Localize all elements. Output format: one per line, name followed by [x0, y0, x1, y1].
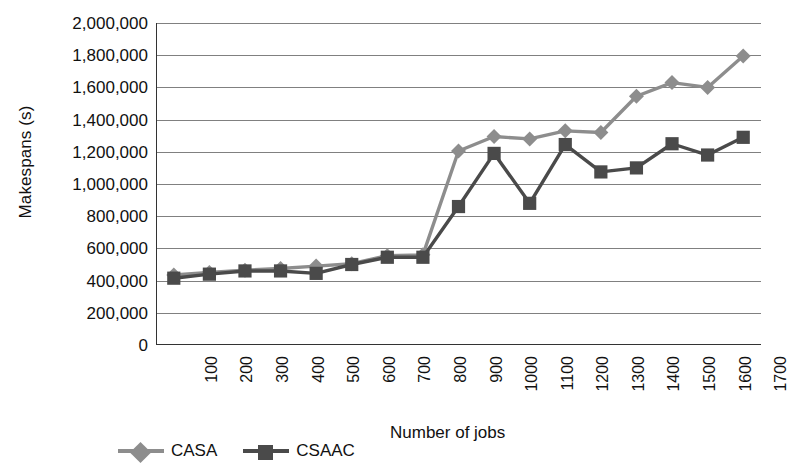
x-tick-label: 900 [489, 356, 505, 416]
y-tick-label: 600,000 [36, 240, 148, 257]
x-tick-label: 1700 [773, 356, 789, 416]
y-tick-label: 1,400,000 [36, 112, 148, 129]
data-point-marker [345, 258, 358, 271]
data-point-marker [559, 138, 572, 151]
legend-label: CASA [171, 441, 217, 461]
data-point-marker [487, 129, 502, 144]
x-tick-label: 700 [417, 356, 433, 416]
y-tick-label: 1,000,000 [36, 176, 148, 193]
y-axis-tick-labels: 2,000,0001,800,0001,600,0001,400,0001,20… [36, 0, 148, 360]
chart-legend: CASACSAAC [118, 437, 355, 465]
data-point-marker [594, 165, 607, 178]
x-tick-label: 800 [453, 356, 469, 416]
data-point-marker [630, 161, 643, 174]
makespans-line-chart: Makespans (s) 2,000,0001,800,0001,600,00… [0, 0, 790, 474]
x-tick-label: 400 [311, 356, 327, 416]
y-tick-label: 1,800,000 [36, 47, 148, 64]
x-tick-label: 1200 [595, 356, 611, 416]
data-point-marker [167, 272, 180, 285]
x-tick-label: 1000 [524, 356, 540, 416]
y-tick-label: 2,000,000 [36, 15, 148, 32]
x-tick-label: 100 [204, 356, 220, 416]
y-tick-label: 800,000 [36, 208, 148, 225]
legend-diamond-icon [130, 442, 151, 463]
y-axis-title: Makespans (s) [16, 72, 36, 252]
x-tick-label: 1300 [631, 356, 647, 416]
x-tick-label: 600 [382, 356, 398, 416]
x-tick-label: 200 [239, 356, 255, 416]
series-casa [166, 49, 750, 283]
x-tick-label: 1600 [738, 356, 754, 416]
x-axis-tick-labels: 1002003004005006007008009001000110012001… [156, 350, 761, 420]
x-tick-label: 500 [346, 356, 362, 416]
legend-entry-casa[interactable]: CASA [118, 441, 217, 461]
legend-swatch [118, 442, 164, 460]
legend-label: CSAAC [296, 441, 355, 461]
y-tick-label: 1,200,000 [36, 144, 148, 161]
legend-swatch [243, 442, 289, 460]
x-tick-label: 300 [275, 356, 291, 416]
data-point-marker [522, 131, 537, 146]
y-tick-label: 1,600,000 [36, 79, 148, 96]
y-tick-label: 0 [36, 337, 148, 354]
data-point-marker [452, 200, 465, 213]
data-point-marker [381, 251, 394, 264]
data-point-marker [416, 251, 429, 264]
y-tick-label: 400,000 [36, 273, 148, 290]
data-point-marker [701, 148, 714, 161]
data-point-marker [523, 197, 536, 210]
y-tick-label: 200,000 [36, 305, 148, 322]
data-point-marker [310, 267, 323, 280]
plot-svg [156, 23, 761, 345]
data-point-marker [238, 264, 251, 277]
plot-area [156, 23, 761, 345]
data-point-marker [203, 268, 216, 281]
data-point-marker [487, 147, 500, 160]
x-axis-title: Number of jobs [390, 423, 650, 443]
x-tick-label: 1400 [666, 356, 682, 416]
x-tick-label: 1500 [702, 356, 718, 416]
x-tick-label: 1100 [560, 356, 576, 416]
data-point-marker [274, 264, 287, 277]
legend-square-icon [258, 445, 273, 460]
legend-entry-csaac[interactable]: CSAAC [243, 441, 355, 461]
data-point-marker [558, 123, 573, 138]
data-point-marker [665, 137, 678, 150]
data-point-marker [451, 143, 466, 158]
data-point-marker [737, 131, 750, 144]
